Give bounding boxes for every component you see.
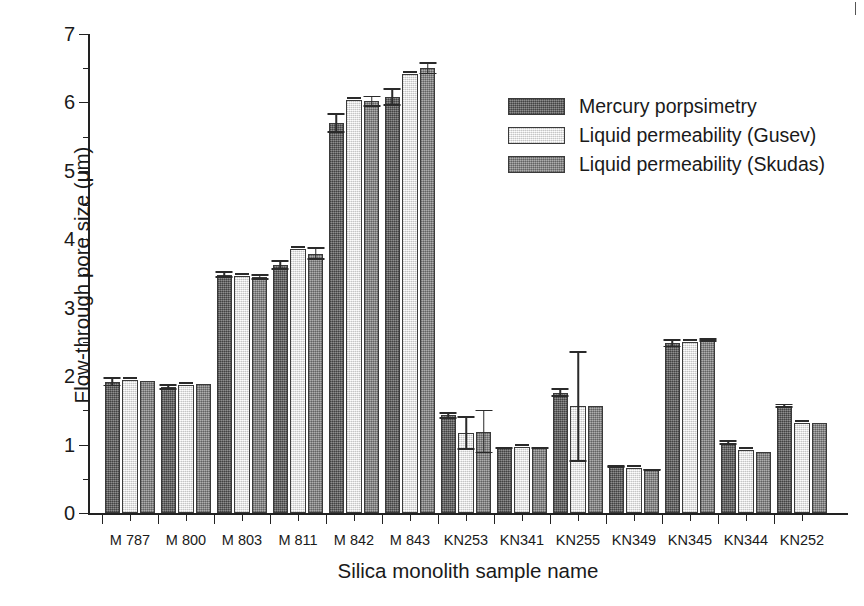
bar-m-842-series-2 [364,101,380,513]
bar-m-843-series-0 [385,97,401,513]
value-cap-marker [515,444,529,446]
bar-kn345-series-0 [665,343,681,513]
error-bar-cap-upper [251,274,268,276]
bar-m-842-series-1 [346,100,362,513]
error-bar-m-843-series-2 [420,62,436,74]
legend-item-liquid-permeability-skudas: Liquid permeability (Skudas) [508,150,825,179]
error-bar-m-811-series-2 [308,247,324,259]
x-tick-center-8 [578,515,579,521]
x-tick-label-kn345: KN345 [668,532,712,548]
x-tick-center-0 [130,515,131,521]
error-bar-kn341-series-2 [532,447,548,450]
x-tick-boundary-11 [718,515,719,524]
error-bar-cap-upper [570,351,587,353]
error-bar-kn255-series-0 [553,388,569,396]
bar-kn341-series-1 [514,447,530,513]
x-tick-label-kn344: KN344 [724,532,768,548]
bar-m-787-series-1 [122,380,138,513]
error-bar-cap-upper [440,412,457,414]
bar-kn252-series-0 [777,406,793,513]
error-bar-cap-lower [608,466,625,468]
x-tick-label-kn341: KN341 [500,532,544,548]
bar-m-811-series-0 [273,265,289,513]
legend-label-series-1: Liquid permeability (Gusev) [579,124,816,147]
value-cap-marker [795,420,809,422]
bar-m-843-series-2 [420,68,436,513]
legend-item-liquid-permeability-gusev: Liquid permeability (Gusev) [508,121,825,150]
x-tick-boundary-5 [382,515,383,524]
bar-m-800-series-1 [178,385,194,513]
error-bar-m-811-series-0 [273,260,289,270]
error-bar-cap-lower [160,388,177,390]
error-bar-stem [483,410,485,454]
x-tick-center-3 [298,515,299,521]
y-tick-0.5 [83,479,88,480]
error-bar-cap-lower [531,448,548,450]
error-bar-cap-lower [570,460,587,462]
error-bar-cap-upper [272,260,289,262]
x-tick-center-7 [522,515,523,521]
error-bar-cap-lower [552,395,569,397]
bar-m-787-series-0 [105,382,121,513]
bar-kn341-series-2 [532,448,548,513]
y-tick-label-6: 6 [64,92,75,112]
x-axis-title: Silica monolith sample name [88,559,848,583]
error-bar-cap-lower [384,104,401,106]
legend-swatch-icon-series-0 [508,98,565,115]
error-bar-cap-upper [328,113,345,115]
bar-m-800-series-2 [196,384,212,513]
legend-label-series-0: Mercury porpsimetry [579,95,757,118]
x-tick-center-4 [354,515,355,521]
error-bar-stem [577,351,579,462]
legend-swatch-icon-series-2 [508,156,565,173]
error-bar-cap-lower [104,385,121,387]
error-bar-cap-lower [458,448,475,450]
error-bar-cap-upper [458,416,475,418]
x-tick-boundary-8 [550,515,551,524]
error-bar-kn253-series-2 [476,410,492,454]
error-bar-cap-upper [475,410,492,412]
y-tick-1.5 [83,410,88,411]
x-tick-boundary-10 [662,515,663,524]
x-tick-center-1 [186,515,187,521]
x-tick-center-5 [410,515,411,521]
error-bar-kn345-series-0 [665,339,681,347]
bar-m-800-series-0 [161,387,177,513]
x-tick-center-6 [466,515,467,521]
error-bar-m-803-series-2 [252,274,268,279]
error-bar-kn253-series-1 [458,416,474,450]
value-cap-marker [347,97,361,99]
error-bar-cap-lower [496,448,513,450]
bar-kn344-series-1 [738,450,754,513]
x-tick-label-kn253: KN253 [444,532,488,548]
y-tick-6.5 [83,68,88,69]
bar-kn349-series-1 [626,468,642,513]
x-tick-label-kn349: KN349 [612,532,656,548]
y-tick-label-0: 0 [64,503,75,523]
x-tick-label-m-787: M 787 [110,532,150,548]
error-bar-m-842-series-2 [364,96,380,107]
value-cap-marker [403,71,417,73]
error-bar-cap-upper [552,388,569,390]
value-cap-marker [179,382,193,384]
x-tick-boundary-6 [438,515,439,524]
value-cap-marker [683,339,697,341]
bar-kn252-series-2 [812,423,828,513]
error-bar-cap-upper [216,271,233,273]
error-bar-cap-upper [160,384,177,386]
bar-kn345-series-2 [700,340,716,513]
x-tick-center-10 [690,515,691,521]
y-tick-1 [79,445,88,446]
x-tick-label-m-843: M 843 [390,532,430,548]
bar-m-842-series-0 [329,123,345,513]
error-bar-kn255-series-1 [570,351,586,462]
bar-m-803-series-2 [252,277,268,513]
chart-figure: 01234567 M 787M 800M 803M 811M 842M 843K… [0,0,864,606]
error-bar-m-843-series-0 [385,88,401,106]
error-bar-kn341-series-0 [497,447,513,450]
error-bar-cap-lower [328,131,345,133]
error-bar-kn344-series-0 [721,440,737,444]
error-bar-kn252-series-0 [777,404,793,408]
y-tick-7 [79,34,88,35]
x-tick-boundary-3 [270,515,271,524]
